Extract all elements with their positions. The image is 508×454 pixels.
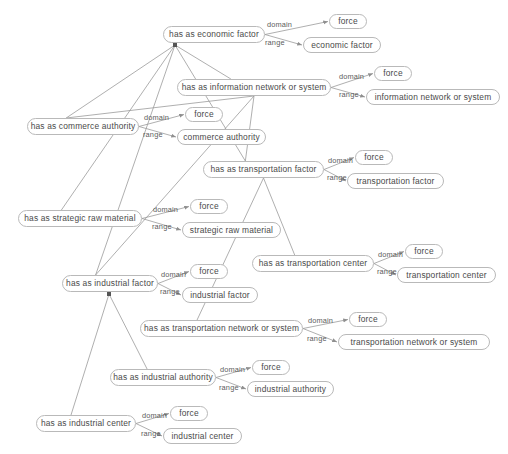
property-node-n_comm[interactable]: has as commerce authority bbox=[27, 118, 139, 135]
range-edge-label: range bbox=[143, 131, 163, 138]
class-node-d_econ[interactable]: force bbox=[329, 14, 367, 29]
property-node-n_raw[interactable]: has as strategic raw material bbox=[18, 210, 142, 227]
domain-edge-label: domain bbox=[161, 271, 186, 278]
hierarchy-hub-marker bbox=[107, 292, 111, 296]
range-edge-label: range bbox=[377, 268, 397, 275]
domain-edge-label: domain bbox=[220, 366, 245, 373]
class-node-d_iauth[interactable]: force bbox=[252, 360, 290, 375]
class-node-r_iauth[interactable]: industrial authority bbox=[247, 381, 334, 397]
range-edge-label: range bbox=[160, 288, 180, 295]
property-node-n_tcenter[interactable]: has as transportation center bbox=[252, 255, 374, 272]
property-node-n_tnet[interactable]: has as transportation network or system bbox=[140, 320, 303, 337]
property-node-n_iauth[interactable]: has as industrial authority bbox=[110, 369, 216, 386]
domain-edge-label: domain bbox=[339, 73, 364, 80]
property-node-n_icenter[interactable]: has as industrial center bbox=[36, 415, 136, 432]
class-node-r_trans[interactable]: transportation factor bbox=[347, 173, 444, 189]
property-node-n_econ[interactable]: has as economic factor bbox=[163, 26, 265, 43]
range-edge-label: range bbox=[327, 174, 347, 181]
range-edge-label: range bbox=[265, 39, 285, 46]
class-node-d_comm[interactable]: force bbox=[185, 107, 223, 122]
domain-edge-label: domain bbox=[308, 317, 333, 324]
class-node-d_raw[interactable]: force bbox=[190, 199, 228, 214]
domain-edge-label: domain bbox=[378, 251, 403, 258]
class-node-r_raw[interactable]: strategic raw material bbox=[182, 222, 281, 238]
domain-edge-label: domain bbox=[153, 206, 178, 213]
property-node-n_info[interactable]: has as information network or system bbox=[177, 79, 331, 96]
domain-edge-label: domain bbox=[144, 114, 169, 121]
class-node-r_icenter[interactable]: industrial center bbox=[163, 428, 242, 444]
class-node-d_icenter[interactable]: force bbox=[170, 406, 208, 421]
class-node-d_tcenter[interactable]: force bbox=[405, 244, 443, 259]
class-node-d_trans[interactable]: force bbox=[355, 150, 393, 165]
class-node-d_info[interactable]: force bbox=[374, 66, 412, 81]
class-node-r_info[interactable]: information network or system bbox=[366, 89, 500, 105]
node-layer: domainrangedomainrangedomainrangedomainr… bbox=[0, 0, 508, 454]
domain-edge-label: domain bbox=[142, 412, 167, 419]
domain-edge-label: domain bbox=[328, 157, 353, 164]
class-node-r_tcenter[interactable]: transportation center bbox=[397, 267, 496, 283]
class-node-r_econ[interactable]: economic factor bbox=[303, 37, 381, 53]
hierarchy-hub-marker bbox=[173, 43, 177, 47]
range-edge-label: range bbox=[307, 335, 327, 342]
diagram-canvas: domainrangedomainrangedomainrangedomainr… bbox=[0, 0, 508, 454]
class-node-r_tnet[interactable]: transportation network or system bbox=[338, 334, 490, 350]
class-node-d_ind[interactable]: force bbox=[190, 264, 228, 279]
range-edge-label: range bbox=[152, 223, 172, 230]
domain-edge-label: domain bbox=[267, 21, 292, 28]
property-node-n_ind[interactable]: has as industrial factor bbox=[62, 275, 158, 292]
range-edge-label: range bbox=[219, 384, 239, 391]
class-node-d_tnet[interactable]: force bbox=[349, 312, 387, 327]
class-node-r_ind[interactable]: industrial factor bbox=[182, 287, 258, 303]
class-node-r_comm[interactable]: commerce authority bbox=[177, 129, 266, 145]
range-edge-label: range bbox=[339, 91, 359, 98]
range-edge-label: range bbox=[141, 430, 161, 437]
property-node-n_trans[interactable]: has as transportation factor bbox=[203, 161, 324, 178]
